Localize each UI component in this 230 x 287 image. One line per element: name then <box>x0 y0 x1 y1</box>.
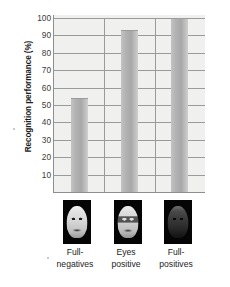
x-category-line1: Full- <box>67 247 84 257</box>
bar-full-positives <box>171 18 188 192</box>
category-divider <box>155 18 156 192</box>
bar-full-negatives <box>71 98 88 192</box>
y-tick-label: 10 <box>25 170 51 180</box>
category-divider <box>104 18 105 192</box>
plot-inner <box>54 18 205 192</box>
y-tick-label: 30 <box>25 135 51 145</box>
x-category-line2: positives <box>147 259 205 271</box>
y-tick-label: 70 <box>25 65 51 75</box>
stimulus-thumbnail-full-positive <box>164 200 192 244</box>
x-category-label-full-positives: Full- positives <box>147 247 205 270</box>
x-category-line1: Full- <box>168 247 185 257</box>
y-tick-label: 100 <box>25 13 51 23</box>
stimulus-thumbnail-eyes-positive <box>114 200 142 244</box>
face-negative-icon <box>67 206 88 238</box>
face-positive-icon <box>168 206 189 238</box>
y-tick-label: 80 <box>25 48 51 58</box>
y-tick-label: 40 <box>25 117 51 127</box>
x-category-label-full-negatives: Full- negatives <box>46 247 104 270</box>
y-tick-label: 60 <box>25 83 51 93</box>
face-eyes-positive-icon <box>118 206 139 238</box>
y-tick-label: 50 <box>25 100 51 110</box>
y-tick-label: 90 <box>25 30 51 40</box>
stimulus-thumbnail-row <box>53 200 205 244</box>
y-tick-label: 20 <box>25 152 51 162</box>
y-axis-tick-labels: 100 90 80 70 60 50 40 30 20 10 <box>25 18 51 190</box>
scan-speck <box>47 257 49 259</box>
figure-bar-chart: Recognition performance (%) 100 90 80 70… <box>0 0 230 287</box>
bar-eyes-positive <box>121 30 138 192</box>
plot-area <box>53 15 205 193</box>
scan-speck <box>13 128 15 130</box>
x-category-line2: negatives <box>46 259 104 271</box>
x-category-line1: Eyes <box>116 247 135 257</box>
x-axis-category-labels: Full- negatives Eyes positive Full- posi… <box>40 247 220 281</box>
stimulus-thumbnail-full-negative <box>63 200 91 244</box>
